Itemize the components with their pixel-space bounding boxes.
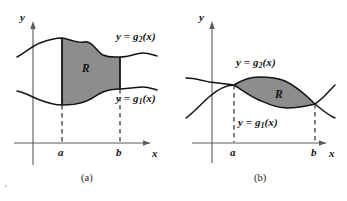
curve-label-g2-b-lhs: y = g — [236, 56, 259, 68]
x-axis-label-a: x — [152, 148, 158, 159]
region-label-a: R — [82, 63, 90, 75]
curve-label-g1-a-lhs: y = g — [116, 92, 139, 104]
panel-caption-a: (a) — [81, 172, 93, 183]
figure-panel-a: y x a b R y = g2(x) y = g1(x) (a) — [0, 0, 174, 201]
tick-label-b-right: b — [311, 147, 317, 158]
curve-label-g1-a-sub: 1 — [139, 97, 143, 106]
curve-label-g2-a: y = g2(x) — [116, 31, 156, 42]
panel-b-plot — [174, 0, 347, 201]
curve-label-g2-a-lhs: y = g — [116, 30, 139, 42]
curve-label-g2-b-sub: 2 — [259, 61, 263, 70]
region-label-b: R — [275, 89, 283, 101]
x-axis-label-b: x — [329, 148, 335, 159]
figure-root: y x a b R y = g2(x) y = g1(x) (a) — [0, 0, 347, 201]
x-axis-a — [14, 140, 150, 145]
y-axis-b — [209, 21, 214, 163]
curve-label-g2-a-rhs: (x) — [143, 30, 156, 42]
figure-panel-b: y x a b R y = g2(x) y = g1(x) (b) — [174, 0, 347, 201]
panel-caption-b: (b) — [254, 172, 266, 183]
tick-label-b-left: a — [230, 147, 236, 158]
curve-label-g2-b: y = g2(x) — [236, 57, 276, 68]
curve-label-g1-a-rhs: (x) — [143, 92, 156, 104]
scan-artifact-speck — [5, 185, 7, 187]
tick-label-a-right: b — [116, 147, 122, 158]
tick-label-a-left: a — [58, 147, 64, 158]
curve-label-g1-b-lhs: y = g — [238, 116, 261, 128]
curve-label-g1-b-rhs: (x) — [265, 116, 278, 128]
curve-label-g1-b: y = g1(x) — [238, 117, 278, 128]
curve-label-g1-a: y = g1(x) — [116, 93, 156, 104]
y-axis-label-a: y — [20, 12, 25, 23]
curve-label-g2-b-rhs: (x) — [263, 56, 276, 68]
curve-label-g1-b-sub: 1 — [261, 121, 265, 130]
shaded-region-a — [62, 38, 120, 105]
y-axis-label-b: y — [199, 12, 204, 23]
curve-label-g2-a-sub: 2 — [139, 35, 143, 44]
